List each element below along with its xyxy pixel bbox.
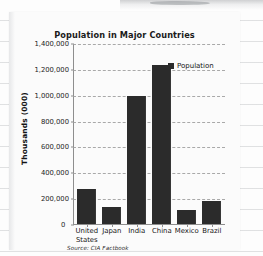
bar-slot [99,44,124,224]
y-tick-mark [71,225,74,226]
x-axis-label: Japan [99,227,124,244]
x-axis-line [73,224,225,225]
bar-slot [149,44,174,224]
y-tick-mark [71,69,74,70]
scanned-page-background: Population in Major Countries Thousands … [0,0,263,256]
y-tick-label: 400,000 [41,169,69,177]
y-tick-mark [71,95,74,96]
y-tick-label: 1,400,000 [34,40,69,48]
page-edge-smudge-detail [150,1,210,5]
y-tick-label: 800,000 [41,118,69,126]
y-tick-mark [71,121,74,122]
source-note: Source: CIA Factbook [67,245,129,251]
bar[interactable] [152,65,171,224]
chart-legend: Population [168,62,214,70]
bar[interactable] [77,189,96,224]
y-tick-mark [71,147,74,148]
plot-area: 200,000400,000600,000800,0001,000,0001,2… [73,44,225,225]
bar-slot [174,44,199,224]
bar-slot [74,44,99,224]
chart-title: Population in Major Countries [9,30,240,40]
bar[interactable] [202,201,221,224]
x-axis-label: Brazil [199,227,224,244]
x-axis-label: China [149,227,174,244]
x-axis-labels: UnitedStatesJapanIndiaChinaMexicoBrazil [74,227,224,244]
bar-slot [199,44,224,224]
bar[interactable] [127,96,146,223]
y-tick-label: 1,000,000 [34,92,69,100]
bar[interactable] [102,207,121,223]
legend-label-population: Population [177,62,214,70]
y-tick-label: 200,000 [41,195,69,203]
x-axis-label: UnitedStates [74,227,99,244]
chart-panel: Population in Major Countries Thousands … [9,12,240,250]
y-tick-mark [71,173,74,174]
x-axis-label: India [124,227,149,244]
y-axis-title: Thousands (000) [20,79,29,179]
y-tick-mark [71,44,74,45]
y-tick-label: 1,200,000 [34,66,69,74]
bar-slot [124,44,149,224]
legend-swatch-population [168,63,174,69]
bars-group [74,44,224,224]
y-tick-label-zero: 0 [61,221,65,229]
x-axis-label: Mexico [174,227,199,244]
panel-shading [9,12,15,250]
y-tick-mark [71,199,74,200]
bar[interactable] [177,210,196,224]
y-tick-label: 600,000 [41,143,69,151]
